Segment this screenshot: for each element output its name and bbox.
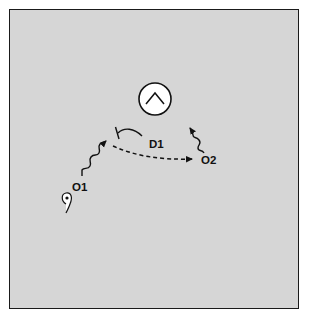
diagram-canvas: D1 O2 O1 (0, 0, 311, 315)
d1-inhibition-icon (116, 127, 143, 139)
label-d1: D1 (149, 138, 164, 150)
label-o2: O2 (201, 154, 216, 166)
target-circle-icon (139, 83, 171, 115)
wavy-arrow-o2 (190, 128, 204, 153)
label-o1: O1 (72, 181, 88, 193)
source-cell-icon (62, 193, 71, 213)
wavy-arrow-o1 (82, 141, 106, 176)
